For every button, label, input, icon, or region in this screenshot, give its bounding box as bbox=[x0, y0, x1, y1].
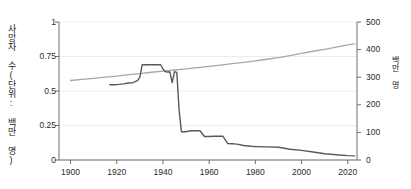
y-axis-right-tick-label: 100 bbox=[366, 127, 380, 137]
chart-container: 사망자 수(단위: 백만 명) 백만 명 00.250.50.751 01002… bbox=[0, 0, 411, 189]
tick-marks bbox=[55, 22, 361, 164]
x-axis-tick-label: 2000 bbox=[282, 167, 322, 177]
x-axis-tick-label: 1920 bbox=[97, 167, 137, 177]
x-axis-tick-label: 1900 bbox=[51, 167, 91, 177]
x-axis-tick-label: 1980 bbox=[235, 167, 275, 177]
gridlines bbox=[59, 22, 357, 160]
series-line-deaths bbox=[110, 65, 355, 156]
y-axis-right-tick-label: 500 bbox=[366, 17, 380, 27]
y-axis-left-tick-label: 0.25 bbox=[39, 120, 56, 130]
y-axis-right-tick-label: 300 bbox=[366, 72, 380, 82]
plot-area bbox=[0, 0, 411, 189]
x-axis-tick-label: 1960 bbox=[189, 167, 229, 177]
y-axis-right-tick-label: 0 bbox=[366, 155, 371, 165]
y-axis-right-tick-label: 200 bbox=[366, 99, 380, 109]
y-axis-left-tick-label: 0 bbox=[51, 155, 56, 165]
y-axis-left-tick-label: 0.75 bbox=[39, 51, 56, 61]
y-axis-left-tick-label: 1 bbox=[51, 17, 56, 27]
x-axis-tick-label: 1940 bbox=[143, 167, 183, 177]
series-line-population bbox=[71, 44, 355, 81]
x-axis-tick-label: 2020 bbox=[328, 167, 368, 177]
y-axis-left-tick-label: 0.5 bbox=[44, 86, 56, 96]
y-axis-right-tick-label: 400 bbox=[366, 44, 380, 54]
